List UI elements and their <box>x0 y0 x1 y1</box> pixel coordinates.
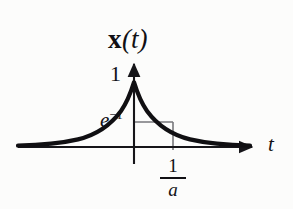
title-variable: t <box>131 24 139 54</box>
decay-value-label: e−1 <box>100 108 122 131</box>
title-function-name: x <box>108 24 122 54</box>
title-paren-close: ) <box>139 24 148 54</box>
decay-exponent: −1 <box>109 107 122 122</box>
page-title: x(t) <box>108 26 148 53</box>
fraction-numerator: 1 <box>160 156 186 176</box>
title-paren-open: ( <box>122 24 131 54</box>
t-axis-label: t <box>268 134 274 155</box>
figure-panel: x(t) 1 e−1 t 1 a <box>0 0 293 209</box>
peak-value-label: 1 <box>110 63 121 85</box>
decay-base: e <box>100 108 109 132</box>
fraction-denominator: a <box>160 180 186 200</box>
x-tick-label-one-over-a: 1 a <box>160 156 186 200</box>
